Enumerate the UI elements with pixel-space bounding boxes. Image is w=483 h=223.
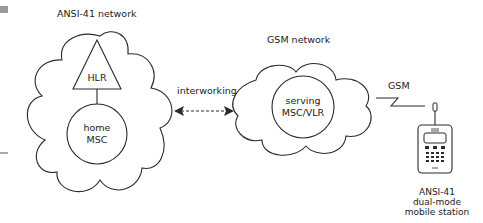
serving-msc-vlr-node: serving MSC/VLR <box>272 76 334 138</box>
gsm-link-label: GSM <box>388 80 410 91</box>
home-msc-node: home MSC <box>67 104 127 164</box>
serving-msc-label-line2: MSC/VLR <box>282 107 325 118</box>
radio-link-zigzag <box>376 98 425 106</box>
interworking-arrow <box>174 106 234 116</box>
hlr-node: HLR <box>73 40 121 89</box>
gsm-network-label: GSM network <box>267 34 331 45</box>
home-msc-label-line2: MSC <box>87 134 108 145</box>
home-msc-label-line1: home <box>84 122 111 133</box>
ansi41-network-label: ANSI-41 network <box>57 8 137 19</box>
mobile-phone-icon <box>418 103 452 173</box>
hlr-label: HLR <box>87 72 106 83</box>
margin-marker <box>0 6 8 13</box>
network-diagram: ANSI-41 network HLR home MSC interworkin… <box>0 0 483 223</box>
interworking-label: interworking <box>177 85 237 96</box>
mobile-station-label-line2: dual-mode <box>413 197 462 207</box>
mobile-station-label-line3: mobile station <box>405 207 469 217</box>
mobile-station-label-line1: ANSI-41 <box>419 187 455 197</box>
serving-msc-label-line1: serving <box>285 95 320 106</box>
ansi41-network-cloud <box>27 32 172 192</box>
